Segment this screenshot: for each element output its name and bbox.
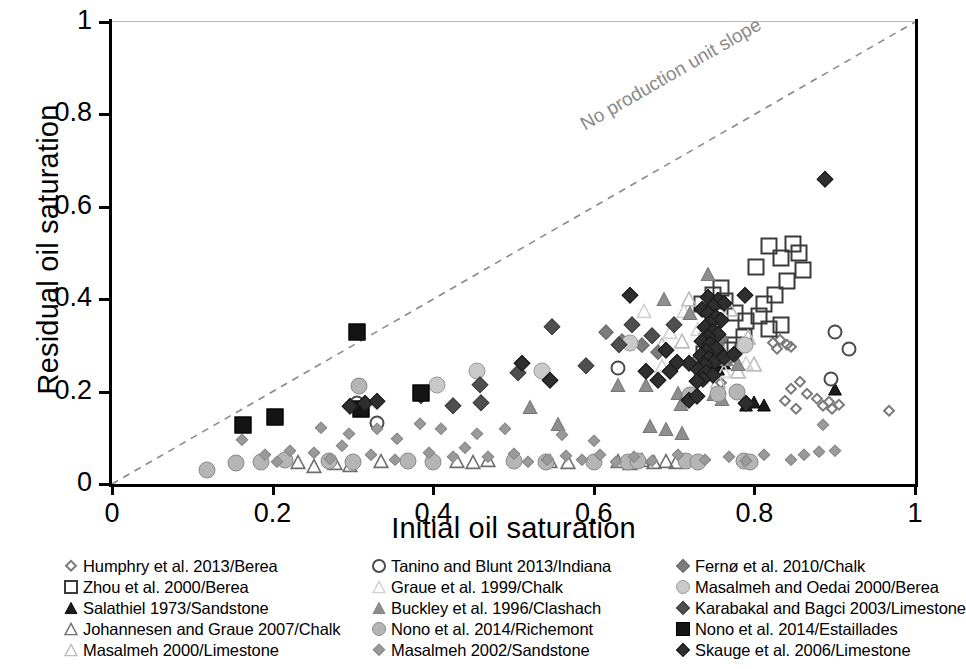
legend-item[interactable]: Skauge et al. 2006/Limestone (674, 640, 966, 660)
legend-column: Humphry et al. 2013/BereaZhou et al. 200… (62, 556, 340, 661)
data-point (627, 451, 640, 464)
chart-legend: Humphry et al. 2013/BereaZhou et al. 200… (0, 556, 960, 669)
data-point (780, 339, 793, 352)
data-point (732, 385, 745, 398)
data-point (658, 421, 674, 437)
data-point (785, 341, 798, 354)
data-point (413, 417, 426, 430)
data-point (388, 453, 401, 466)
unit-slope-annotation: No production unit slope (577, 13, 766, 134)
legend-item[interactable]: Buckley et al. 1996/Clashach (370, 598, 611, 618)
legend-item[interactable]: Nono et al. 2014/Richemont (370, 619, 611, 639)
data-point (348, 323, 365, 340)
data-point (469, 362, 486, 379)
data-point (748, 258, 765, 275)
data-point (772, 249, 789, 266)
data-point (680, 291, 697, 308)
data-point (542, 453, 558, 469)
data-point (228, 455, 245, 472)
x-tick-label: 0.8 (719, 498, 789, 529)
data-point (610, 360, 625, 375)
data-point (784, 235, 801, 252)
data-point (390, 432, 403, 445)
legend-item-label: Nono et al. 2014/Richemont (391, 620, 593, 639)
y-tick-mark (99, 206, 110, 209)
data-point (817, 171, 833, 187)
diamond-open-icon (62, 558, 79, 575)
legend-item[interactable]: Johannesen and Graue 2007/Chalk (62, 619, 340, 639)
data-point (614, 333, 629, 348)
legend-item-label: Fernø et al. 2010/Chalk (695, 557, 865, 576)
data-point (704, 367, 720, 383)
legend-item[interactable]: Karabakal and Bagci 2003/Limestone (674, 598, 966, 618)
y-tick-mark (99, 391, 110, 394)
x-tick-mark (272, 484, 275, 495)
legend-item-label: Karabakal and Bagci 2003/Limestone (695, 599, 966, 618)
triangle-filled-icon (62, 600, 79, 617)
data-point (687, 354, 704, 371)
data-point (757, 449, 770, 462)
legend-item[interactable]: Salathiel 1973/Sandstone (62, 598, 340, 618)
legend-item[interactable]: Fernø et al. 2010/Chalk (674, 556, 966, 576)
data-point (399, 452, 416, 469)
y-tick-label: 0.6 (22, 190, 92, 221)
legend-item[interactable]: Graue et al. 1999/Chalk (370, 577, 611, 597)
data-point (662, 324, 678, 340)
data-point (276, 451, 293, 468)
data-point (722, 301, 739, 318)
legend-item[interactable]: Humphry et al. 2013/Berea (62, 556, 340, 576)
data-point (619, 453, 636, 470)
data-point (700, 289, 716, 305)
data-point (747, 394, 762, 409)
data-point (336, 439, 349, 452)
data-point (739, 397, 754, 412)
x-tick-label: 1 (880, 498, 950, 529)
data-point (756, 295, 773, 312)
data-point (708, 309, 724, 325)
data-point (670, 385, 686, 401)
data-point (728, 383, 745, 400)
data-point (716, 363, 732, 379)
y-tick-mark (99, 298, 110, 301)
data-point (425, 453, 442, 470)
data-point (727, 305, 744, 322)
data-point (700, 305, 716, 321)
circle-light-icon (674, 579, 691, 596)
data-point (541, 453, 554, 466)
data-point (694, 295, 711, 312)
data-point (290, 454, 306, 470)
y-tick-label: 0 (22, 467, 92, 498)
circle-gray-icon (370, 621, 387, 638)
legend-item[interactable]: Masalmeh 2002/Sandstone (370, 640, 611, 660)
data-point (706, 353, 722, 369)
data-point (342, 457, 358, 473)
data-point (533, 362, 550, 379)
data-point (642, 418, 658, 434)
legend-item-label: Johannesen and Graue 2007/Chalk (83, 620, 340, 639)
data-point (883, 404, 896, 417)
legend-item[interactable]: Masalmeh 2000/Limestone (62, 640, 340, 660)
data-point (746, 355, 763, 372)
data-point (737, 286, 753, 302)
data-point (654, 337, 671, 354)
data-point (682, 387, 699, 404)
legend-item[interactable]: Zhou et al. 2000/Berea (62, 577, 340, 597)
legend-item[interactable]: Nono et al. 2014/Estaillades (674, 619, 966, 639)
y-tick-mark (99, 113, 110, 116)
data-point (795, 262, 812, 279)
x-tick-label: 0.6 (559, 498, 629, 529)
legend-item[interactable]: Tanino and Blunt 2013/Indiana (370, 556, 611, 576)
x-tick-label: 0.4 (398, 498, 468, 529)
data-point (413, 384, 430, 401)
data-point (575, 453, 588, 466)
data-point (714, 377, 727, 390)
data-point (726, 346, 742, 362)
data-point (577, 358, 594, 375)
y-tick-mark (99, 483, 110, 486)
legend-item[interactable]: Masalmeh and Oedai 2000/Berea (674, 577, 966, 597)
data-point (342, 427, 355, 440)
data-point (676, 303, 692, 319)
data-point (692, 346, 708, 362)
data-point (817, 400, 830, 413)
data-point (711, 361, 726, 376)
